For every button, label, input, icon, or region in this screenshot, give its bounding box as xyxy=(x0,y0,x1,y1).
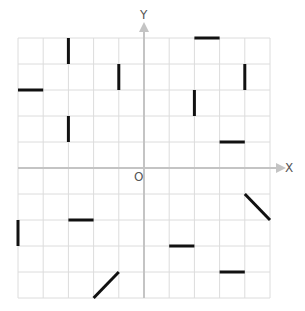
x-axis-label: X xyxy=(285,161,293,175)
y-axis-arrow-icon xyxy=(139,22,149,32)
axes: X Y O xyxy=(18,8,293,298)
line-segment xyxy=(245,194,270,220)
line-segment xyxy=(94,272,119,298)
y-axis-label: Y xyxy=(139,8,148,22)
origin-label: O xyxy=(134,170,143,184)
coordinate-grid-diagram: X Y O xyxy=(0,0,305,311)
